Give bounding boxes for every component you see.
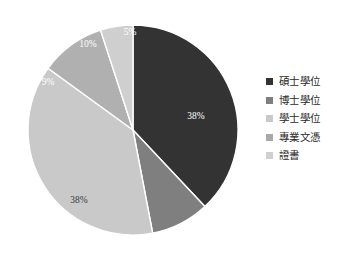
legend-item[interactable]: 博士學位 <box>266 95 346 106</box>
legend-color-swatch-icon <box>266 134 273 141</box>
pie-slice-percent-label: 9% <box>42 77 55 87</box>
legend-item[interactable]: 碩士學位 <box>266 76 346 87</box>
pie-slice-percent-label: 38% <box>187 111 205 121</box>
pie-slice-percent-label: 5% <box>124 27 137 37</box>
legend-color-swatch-icon <box>266 97 273 104</box>
pie-slice-percent-label: 38% <box>70 195 88 205</box>
pie-slice-percent-label: 10% <box>79 39 97 49</box>
legend-item-label: 證書 <box>279 150 300 161</box>
legend-color-swatch-icon <box>266 115 273 122</box>
legend-color-swatch-icon <box>266 152 273 159</box>
legend-item-label: 專業文憑 <box>279 132 320 143</box>
pie-chart-figure: 38%38%9%10%5% 碩士學位博士學位學士學位專業文憑證書 <box>0 0 350 261</box>
legend-item-label: 碩士學位 <box>279 76 320 87</box>
legend-item-label: 學士學位 <box>279 113 320 124</box>
legend-item[interactable]: 證書 <box>266 150 346 161</box>
pie-slice-group <box>28 25 238 235</box>
legend-color-swatch-icon <box>266 78 273 85</box>
legend-item-label: 博士學位 <box>279 95 320 106</box>
chart-legend: 碩士學位博士學位學士學位專業文憑證書 <box>266 76 346 161</box>
legend-item[interactable]: 學士學位 <box>266 113 346 124</box>
legend-item[interactable]: 專業文憑 <box>266 132 346 143</box>
